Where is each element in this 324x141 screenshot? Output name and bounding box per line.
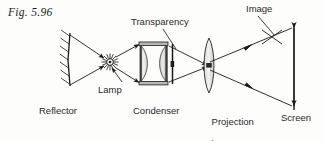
lamp-component (102, 54, 119, 71)
ray-arrow-lower-mid (245, 83, 253, 88)
rays-lamp-to-condenser (116, 45, 139, 83)
condenser-component (139, 42, 168, 85)
label-reflector: Reflector (39, 105, 77, 116)
ray-lamp-condenser-upper (116, 45, 139, 58)
condenser-element-2 (160, 46, 166, 82)
ray-condenser-lens-upper (169, 46, 207, 65)
transparency-component (171, 44, 175, 84)
label-projection-lens: Projection lens (201, 105, 254, 141)
rays-reflector-to-lamp (70, 35, 104, 85)
figure-container: Fig. 5.96 Transparency Image Lamp Reflec… (0, 0, 324, 141)
leader-lamp (112, 68, 122, 82)
label-condenser: Condenser (133, 105, 179, 116)
condenser-bottom-mount (139, 82, 168, 85)
label-transparency: Transparency (131, 16, 189, 27)
reflector-surface (68, 33, 70, 86)
rays-condenser-to-lens (169, 46, 207, 82)
label-image: Image (246, 3, 272, 14)
transparency-marker (171, 61, 175, 67)
condenser-top-mount (139, 42, 168, 45)
label-projection-lens-line2: lens (212, 138, 229, 141)
condenser-element-1 (141, 46, 147, 82)
ray-reflector-lamp-lower (70, 66, 104, 85)
lamp-core (109, 61, 112, 64)
ray-arrow-upper-mid (244, 45, 252, 51)
reflector-component (60, 30, 70, 86)
condenser-edge-left (140, 45, 142, 82)
ray-condenser-lens-lower (169, 67, 207, 82)
ray-reflector-lamp-upper (70, 35, 104, 58)
label-projection-lens-line1: Projection (212, 116, 254, 127)
projection-lens-axis-marker (206, 63, 212, 68)
projection-lens-component (204, 38, 214, 93)
ray-lamp-condenser-lower (116, 68, 139, 83)
label-lamp: Lamp (98, 84, 122, 95)
figure-caption: Fig. 5.96 (8, 6, 53, 18)
rays-lens-to-screen (210, 28, 292, 106)
condenser-edge-right (166, 45, 168, 82)
label-screen: Screen (281, 112, 311, 123)
